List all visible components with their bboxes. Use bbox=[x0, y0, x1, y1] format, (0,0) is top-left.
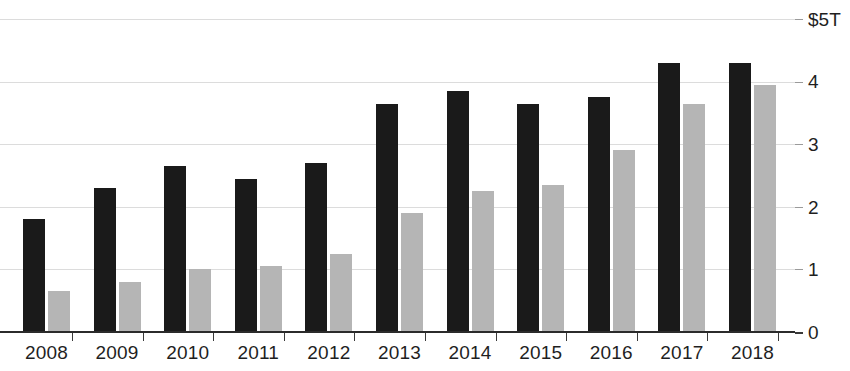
y-axis-label-3: 3 bbox=[808, 135, 819, 154]
x-axis-tick-2009 bbox=[143, 332, 144, 341]
x-axis-tick-2012 bbox=[354, 332, 355, 341]
x-axis-tick-2010 bbox=[213, 332, 214, 341]
bar-series-dark-2008 bbox=[23, 219, 45, 332]
bar-series-dark-2010 bbox=[164, 166, 186, 332]
x-axis-label-2012: 2012 bbox=[294, 341, 364, 365]
x-axis-label-2010: 2010 bbox=[153, 341, 223, 365]
x-axis-label-2008: 2008 bbox=[12, 341, 82, 365]
y-axis-label-0: 0 bbox=[808, 323, 819, 342]
bar-series-light-2012 bbox=[330, 254, 352, 332]
x-axis-tick-2014 bbox=[496, 332, 497, 341]
gridline-5 bbox=[0, 19, 795, 20]
bar-series-light-2014 bbox=[472, 191, 494, 332]
bar-series-dark-2015 bbox=[517, 104, 539, 332]
bar-series-light-2008 bbox=[48, 291, 70, 332]
y-axis-label-2: 2 bbox=[808, 198, 819, 217]
bar-series-light-2011 bbox=[260, 266, 282, 332]
x-axis-label-2013: 2013 bbox=[365, 341, 435, 365]
x-axis-label-2014: 2014 bbox=[435, 341, 505, 365]
x-axis-tick-2013 bbox=[425, 332, 426, 341]
x-axis-label-2016: 2016 bbox=[576, 341, 646, 365]
y-axis-labels: $5T 4 3 2 1 0 bbox=[800, 0, 850, 371]
bar-series-dark-2014 bbox=[447, 91, 469, 332]
x-axis-tick-2008 bbox=[72, 332, 73, 341]
bar-series-light-2013 bbox=[401, 213, 423, 332]
bar-series-dark-2011 bbox=[235, 179, 257, 332]
x-axis-label-2017: 2017 bbox=[647, 341, 717, 365]
x-axis-tick-2017 bbox=[707, 332, 708, 341]
y-axis-label-1: 1 bbox=[808, 260, 819, 279]
bar-series-light-2017 bbox=[683, 104, 705, 332]
x-axis-label-2009: 2009 bbox=[82, 341, 152, 365]
bar-series-dark-2009 bbox=[94, 188, 116, 332]
x-axis-tick-2018 bbox=[778, 332, 779, 341]
bar-series-light-2015 bbox=[542, 185, 564, 332]
x-axis-tick-2016 bbox=[637, 332, 638, 341]
bar-series-light-2010 bbox=[189, 269, 211, 332]
plot-area bbox=[0, 0, 795, 371]
y-axis-label-5: $5T bbox=[808, 10, 841, 29]
x-axis-tick-2015 bbox=[566, 332, 567, 341]
bar-series-light-2016 bbox=[613, 150, 635, 332]
bar-series-light-2018 bbox=[754, 85, 776, 332]
bar-series-dark-2016 bbox=[588, 97, 610, 332]
x-axis-baseline bbox=[0, 331, 795, 333]
x-axis-label-2011: 2011 bbox=[223, 341, 293, 365]
bar-series-dark-2018 bbox=[729, 63, 751, 332]
x-axis-label-2015: 2015 bbox=[506, 341, 576, 365]
x-axis-tick-2011 bbox=[284, 332, 285, 341]
bar-chart: 2008200920102011201220132014201520162017… bbox=[0, 0, 850, 371]
y-axis-label-4: 4 bbox=[808, 72, 819, 91]
bar-series-light-2009 bbox=[119, 282, 141, 332]
bar-series-dark-2013 bbox=[376, 104, 398, 332]
bar-series-dark-2012 bbox=[305, 163, 327, 332]
bar-series-dark-2017 bbox=[658, 63, 680, 332]
x-axis-label-2018: 2018 bbox=[718, 341, 788, 365]
